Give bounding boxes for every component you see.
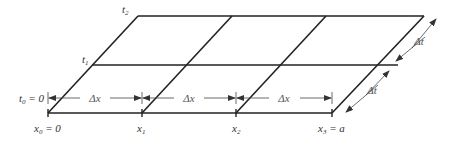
dt-label-lower: Δt: [366, 84, 377, 96]
time-label-t1: t1: [82, 53, 89, 67]
node-label-x0: x0 = 0: [33, 122, 61, 136]
time-label-t0: t0 = 0: [19, 92, 44, 106]
node-label-x3: x3 = a: [317, 122, 345, 136]
dx-label-1: Δx: [88, 92, 100, 104]
time-label-t2: t2: [122, 3, 129, 17]
dx-label-2: Δx: [182, 92, 194, 104]
finite-difference-grid-diagram: Δx Δx Δx Δt Δt t2 t1 t0 = 0 x0 = 0 x1: [0, 0, 455, 142]
node-label-x2: x2: [231, 122, 241, 136]
dt-label-upper: Δt: [413, 35, 424, 47]
node-label-x1: x1: [136, 122, 145, 136]
dx-label-3: Δx: [277, 92, 289, 104]
